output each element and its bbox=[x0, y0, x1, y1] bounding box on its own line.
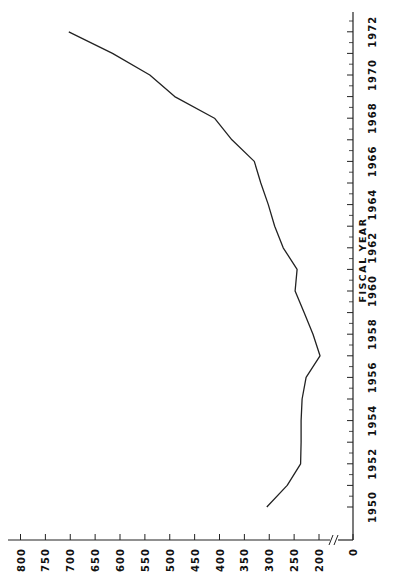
value-tick-label: 700 bbox=[65, 548, 76, 572]
year-tick-label: 1958 bbox=[367, 318, 378, 350]
year-tick-label: 1962 bbox=[367, 232, 378, 264]
value-tick-label: 0 bbox=[348, 548, 359, 556]
year-tick-label: 1972 bbox=[367, 16, 378, 48]
value-tick-label: 450 bbox=[190, 548, 201, 572]
axes bbox=[8, 12, 353, 545]
value-tick-label: 300 bbox=[264, 548, 275, 572]
value-tick-label: 550 bbox=[140, 548, 151, 572]
value-tick-label: 400 bbox=[215, 548, 226, 572]
year-tick-label: 1956 bbox=[367, 361, 378, 393]
year-tick-label: 1964 bbox=[367, 189, 378, 221]
year-tick-label: 1954 bbox=[367, 405, 378, 437]
year-tick-label: 1970 bbox=[367, 59, 378, 91]
value-tick-label: 250 bbox=[289, 548, 300, 572]
year-tick-labels: 1950195219541956195819601962196419661968… bbox=[367, 16, 378, 523]
value-tick-label: 500 bbox=[165, 548, 176, 572]
value-tick-label: 350 bbox=[239, 548, 250, 572]
data-line bbox=[69, 32, 320, 507]
year-tick-label: 1966 bbox=[367, 145, 378, 177]
value-tick-label: 600 bbox=[115, 548, 126, 572]
year-tick-label: 1950 bbox=[367, 491, 378, 523]
year-tick-label: 1960 bbox=[367, 275, 378, 307]
x-axis-title: FISCAL YEAR bbox=[357, 217, 368, 302]
line-chart: 1950195219541956195819601962196419661968… bbox=[0, 0, 398, 585]
value-tick-label: 750 bbox=[40, 548, 51, 572]
value-tick-label: 200 bbox=[314, 548, 325, 572]
value-tick-label: 650 bbox=[90, 548, 101, 572]
year-tick-label: 1968 bbox=[367, 102, 378, 134]
year-tick-label: 1952 bbox=[367, 448, 378, 480]
value-tick-labels: 0200250300350400450500550600650700750800 bbox=[16, 548, 360, 572]
value-tick-label: 800 bbox=[16, 548, 27, 572]
